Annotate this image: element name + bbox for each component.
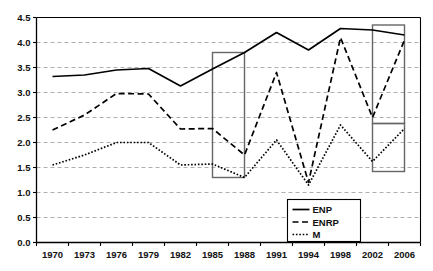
y-tick-label-2.0: 2.0: [17, 137, 30, 148]
legend-label-enrp: ENRP: [313, 217, 340, 228]
y-tick-label-0.0: 0.0: [17, 237, 30, 248]
x-tick-label-1970: 1970: [42, 249, 63, 260]
y-tick-label-4.5: 4.5: [17, 12, 31, 23]
x-tick-label-1976: 1976: [106, 249, 127, 260]
chart-background: [0, 0, 433, 271]
y-tick-label-3.5: 3.5: [17, 62, 31, 73]
y-tick-label-1.0: 1.0: [17, 187, 30, 198]
x-tick-label-2002: 2002: [362, 249, 383, 260]
x-tick-label-2006: 2006: [394, 249, 415, 260]
x-tick-label-1985: 1985: [202, 249, 224, 260]
y-tick-label-2.5: 2.5: [17, 112, 31, 123]
legend-label-enp: ENP: [313, 204, 333, 215]
x-tick-label-1982: 1982: [170, 249, 191, 260]
x-tick-label-1994: 1994: [298, 249, 320, 260]
y-tick-label-1.5: 1.5: [17, 162, 31, 173]
y-tick-label-0.5: 0.5: [17, 212, 31, 223]
x-tick-label-1973: 1973: [74, 249, 95, 260]
x-tick-label-1998: 1998: [330, 249, 351, 260]
x-tick-label-1988: 1988: [234, 249, 255, 260]
y-tick-label-3.0: 3.0: [17, 87, 30, 98]
chart-legend: ENPENRPM: [288, 200, 361, 242]
line-chart: 0.00.51.01.52.02.53.03.54.04.5 197019731…: [0, 0, 433, 271]
legend-label-m: M: [313, 229, 321, 240]
y-tick-label-4.0: 4.0: [17, 37, 30, 48]
x-tick-label-1979: 1979: [138, 249, 159, 260]
chart-container: 0.00.51.01.52.02.53.03.54.04.5 197019731…: [0, 0, 433, 271]
x-tick-label-1991: 1991: [266, 249, 288, 260]
